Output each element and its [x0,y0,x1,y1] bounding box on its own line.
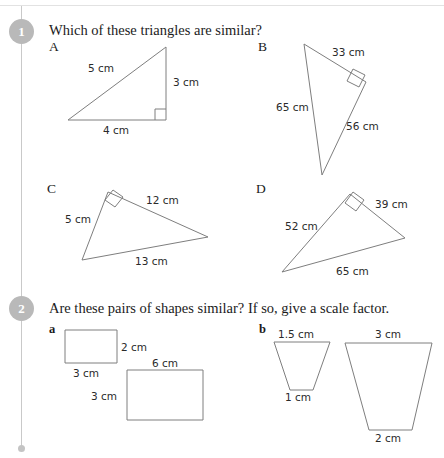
dim-a-large-height: 3 cm [91,390,117,402]
shape-label-a: A [49,39,59,55]
dim-b-large-bottom: 2 cm [375,432,401,444]
figure-rect-small [65,330,117,363]
figure-trapezium-small [274,342,330,390]
dim-c-top: 12 cm [146,194,179,206]
dim-d-left: 52 cm [285,220,318,232]
question-spine-end-dot [18,445,25,452]
dim-b-left: 65 cm [276,101,309,113]
question-1-prompt: Which of these triangles are similar? [49,22,262,39]
dim-a-hypotenuse: 5 cm [88,62,114,74]
dim-a-large-width: 6 cm [152,357,178,369]
dim-b-small-bottom: 1 cm [285,391,311,403]
dim-a-small-width: 3 cm [73,367,99,379]
figure-trapezium-large [345,343,432,430]
question-2-badge: 2 [9,296,34,321]
question-1-badge: 1 [9,19,34,44]
worksheet-page: 1 Which of these triangles are similar? … [0,0,444,458]
dim-d-base: 65 cm [336,265,369,277]
dim-c-left: 5 cm [65,213,91,225]
figure-rect-large [127,370,203,420]
dim-b-right: 56 cm [346,120,379,132]
shape-label-b: B [258,39,267,55]
dim-a-vertical: 3 cm [173,76,199,88]
page-top-rule [0,5,444,6]
question-2-prompt: Are these pairs of shapes similar? If so… [49,300,389,317]
part-label-a: a [49,322,55,337]
figure-triangle-a [68,47,166,120]
dim-c-base: 13 cm [135,255,168,267]
figure-triangle-c [82,190,208,260]
figures-layer [0,0,444,458]
dim-a-base: 4 cm [103,124,129,136]
dim-a-small-height: 2 cm [121,341,147,353]
dim-b-large-top: 3 cm [375,328,401,340]
dim-b-small-top: 1.5 cm [278,328,314,340]
shape-label-d: D [256,181,266,197]
shape-label-c: C [47,181,56,197]
question-spine-line [21,6,22,448]
figure-triangle-b [304,44,366,175]
dim-d-top: 39 cm [375,198,408,210]
part-label-b: b [259,322,266,337]
dim-b-top: 33 cm [332,46,365,58]
